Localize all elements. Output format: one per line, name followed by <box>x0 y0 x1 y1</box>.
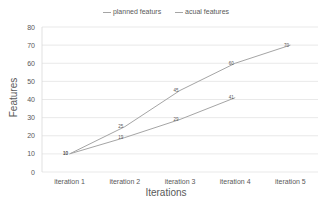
x-tick-label: iteration 3 <box>165 178 196 185</box>
x-axis-title: Iterations <box>0 187 332 198</box>
x-tick-label: iteration 4 <box>220 178 251 185</box>
y-tick-label: 50 <box>27 78 35 85</box>
y-tick-label: 0 <box>31 169 35 176</box>
x-tick-label: iteration 2 <box>109 178 140 185</box>
y-tick-label: 20 <box>27 132 35 139</box>
x-tick-label: iteration 1 <box>54 178 85 185</box>
data-label: 25 <box>118 124 124 129</box>
series-line-actual <box>70 98 236 154</box>
data-label: 19 <box>118 135 124 140</box>
y-tick-label: 80 <box>27 24 35 31</box>
y-tick-label: 60 <box>27 60 35 67</box>
y-tick-label: 70 <box>27 42 35 49</box>
plot-area: 01020304050607080iteration 1iteration 2i… <box>0 0 332 206</box>
data-label: 60 <box>229 61 235 66</box>
data-label: 41 <box>229 95 235 100</box>
data-label: 29 <box>173 117 179 122</box>
x-tick-label: iteration 5 <box>275 178 306 185</box>
y-tick-label: 30 <box>27 114 35 121</box>
line-chart: planned featurs acual features 010203040… <box>0 0 332 206</box>
y-tick-label: 10 <box>27 150 35 157</box>
data-label: 70 <box>284 43 290 48</box>
data-label: 45 <box>173 88 179 93</box>
data-label: 10 <box>63 151 69 156</box>
y-axis-title: Features <box>8 78 19 117</box>
y-tick-label: 40 <box>27 96 35 103</box>
